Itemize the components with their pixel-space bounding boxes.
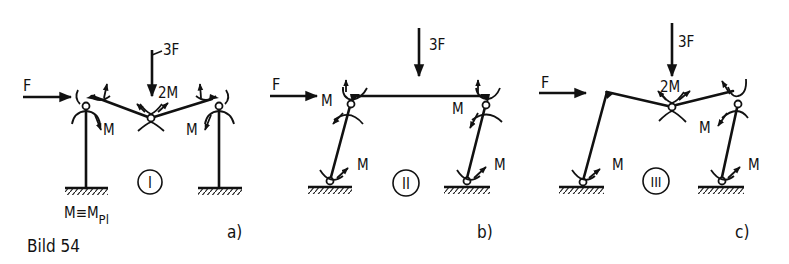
moment-label: M xyxy=(612,156,624,174)
moment-label: 2M xyxy=(660,78,680,96)
panel-label-b: b) xyxy=(477,222,493,242)
moment-label: M xyxy=(748,156,760,174)
moment-label: M xyxy=(699,119,711,137)
figure-caption: Bild 54 xyxy=(27,236,80,256)
plastic-hinge-center xyxy=(137,103,168,131)
moment-label: M xyxy=(494,156,506,174)
load-label-F: F xyxy=(23,76,31,95)
moment-label: M xyxy=(103,121,115,139)
fixed-support-left xyxy=(65,188,108,195)
load-label-F: F xyxy=(272,75,280,94)
moment-label: 2M xyxy=(158,84,178,102)
mechanism-number: I xyxy=(148,174,152,192)
moment-label: M xyxy=(357,156,369,174)
load-label-3F: 3F xyxy=(429,36,445,54)
load-label-F: F xyxy=(541,73,549,92)
mechanism-number: III xyxy=(650,174,661,190)
panel-a: F 3F M 2M M I M≡MPl a) xyxy=(23,41,242,242)
panel-label-c: c) xyxy=(735,222,749,242)
plastic-moment-note: M≡MPl xyxy=(64,204,109,227)
load-label-3F: 3F xyxy=(163,41,179,59)
fixed-support-right xyxy=(198,188,242,195)
load-label-3F: 3F xyxy=(678,33,694,51)
moment-label: M xyxy=(321,92,333,110)
mechanism-number: II xyxy=(402,175,410,193)
frame-members xyxy=(331,96,488,178)
moment-label: M xyxy=(186,121,198,139)
plastic-hinge-right xyxy=(196,84,234,130)
figure-bild-54: F 3F M 2M M I M≡MPl a) Bild 54 xyxy=(0,0,789,264)
panel-b: F 3F M M M M II b) xyxy=(270,28,506,242)
panel-label-a: a) xyxy=(227,222,242,242)
moment-label: M xyxy=(452,100,464,118)
pinned-support-left xyxy=(559,179,604,195)
frame-members xyxy=(86,96,219,188)
panel-c: F 3F 2M M M M III c) xyxy=(539,23,760,242)
frame-members xyxy=(584,91,737,177)
